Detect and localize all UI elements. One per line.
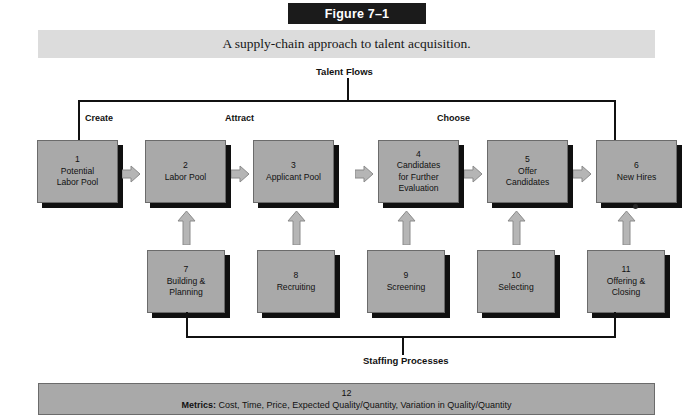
flow-box-new-hires[interactable]: 6 New Hires	[596, 140, 677, 203]
flow-box-label: Applicant Pool	[266, 172, 321, 184]
process-box-label: Offering & Closing	[607, 276, 646, 299]
process-box-screening[interactable]: 9 Screening	[367, 250, 445, 313]
figure-caption-band: A supply-chain approach to talent acquis…	[38, 30, 655, 58]
process-box-recruiting[interactable]: 8 Recruiting	[257, 250, 335, 313]
process-box-number: 8	[294, 270, 299, 282]
arrow-up-icon	[287, 211, 306, 245]
flow-box-label: Candidates for Further Evaluation	[397, 160, 440, 195]
metrics-value: Cost, Time, Price, Expected Quality/Quan…	[216, 400, 511, 410]
flow-box-number: 6	[634, 160, 639, 172]
flow-box-offer-candidates[interactable]: 5 Offer Candidates	[487, 140, 568, 203]
flow-box-number: 4	[416, 149, 421, 161]
process-box-selecting[interactable]: 10 Selecting	[477, 250, 555, 313]
figure-caption-text: A supply-chain approach to talent acquis…	[222, 36, 470, 52]
arrow-up-icon	[397, 211, 416, 245]
process-box-label: Selecting	[498, 282, 533, 294]
talent-flows-right-drop-line	[614, 100, 616, 140]
talent-flows-bracket-line	[78, 100, 616, 102]
staffing-processes-right-riser-line	[614, 312, 616, 337]
metrics-box[interactable]: 12 Metrics: Cost, Time, Price, Expected …	[38, 383, 655, 415]
scan-artifact-speck	[633, 204, 638, 209]
staffing-processes-bracket-line	[186, 336, 616, 338]
arrow-up-icon	[617, 211, 636, 245]
process-box-label: Building & Planning	[167, 276, 206, 299]
talent-flows-label: Talent Flows	[316, 66, 373, 77]
flow-box-applicant-pool[interactable]: 3 Applicant Pool	[253, 140, 334, 203]
flow-box-label: Labor Pool	[165, 172, 207, 184]
process-box-number: 7	[184, 264, 189, 276]
flow-box-number: 1	[75, 154, 80, 166]
staffing-processes-label: Staffing Processes	[363, 355, 449, 366]
phase-label-choose: Choose	[437, 113, 470, 123]
process-box-label: Screening	[387, 282, 426, 294]
metrics-label: Metrics:	[182, 400, 217, 410]
flow-box-number: 3	[291, 160, 296, 172]
figure-title-bar: Figure 7–1	[288, 3, 426, 24]
process-box-offering-and-closing[interactable]: 11 Offering & Closing	[587, 250, 665, 313]
process-box-building-and-planning[interactable]: 7 Building & Planning	[147, 250, 225, 313]
metrics-number: 12	[341, 387, 351, 399]
phase-label-attract: Attract	[225, 113, 254, 123]
flow-box-label: Potential Labor Pool	[57, 166, 99, 189]
arrow-right-icon	[231, 165, 249, 183]
arrow-right-icon	[355, 165, 373, 183]
flow-box-labor-pool[interactable]: 2 Labor Pool	[145, 140, 226, 203]
phase-label-create: Create	[85, 113, 113, 123]
talent-flows-left-drop-line	[78, 100, 80, 140]
process-box-number: 9	[404, 270, 409, 282]
talent-flows-stem-line	[347, 78, 349, 101]
flow-box-candidates-for-further-evaluation[interactable]: 4 Candidates for Further Evaluation	[378, 140, 459, 203]
flow-box-label: New Hires	[617, 172, 657, 184]
flow-box-label: Offer Candidates	[506, 166, 549, 189]
process-box-number: 11	[622, 264, 631, 276]
arrow-right-icon	[464, 165, 482, 183]
arrow-up-icon	[177, 211, 196, 245]
staffing-processes-stem-line	[402, 336, 404, 355]
metrics-text-line: Metrics: Cost, Time, Price, Expected Qua…	[182, 399, 512, 411]
flow-box-number: 5	[525, 154, 530, 166]
figure-title-text: Figure 7–1	[325, 7, 390, 21]
flow-box-potential-labor-pool[interactable]: 1 Potential Labor Pool	[37, 140, 118, 203]
process-box-label: Recruiting	[277, 282, 316, 294]
arrow-right-icon	[122, 165, 140, 183]
arrow-up-icon	[507, 211, 526, 245]
staffing-processes-left-riser-line	[186, 312, 188, 337]
arrow-right-icon	[573, 165, 591, 183]
flow-box-number: 2	[183, 160, 188, 172]
process-box-number: 10	[511, 270, 521, 282]
